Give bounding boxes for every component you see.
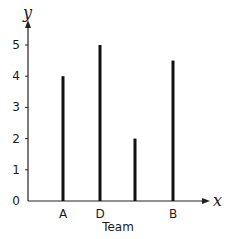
x-axis-arrow-icon — [202, 198, 210, 204]
x-tick-labels: ADB — [59, 207, 177, 221]
x-tick-label: D — [95, 207, 104, 221]
bar — [99, 45, 102, 201]
bars — [62, 45, 175, 201]
x-axis-title: Team — [101, 220, 134, 234]
bar — [134, 139, 137, 201]
bar-chart: y x 012345 ADB Team — [0, 0, 227, 239]
bar — [62, 76, 65, 201]
y-tick-label: 4 — [12, 69, 20, 83]
y-tick-label: 0 — [12, 194, 20, 208]
x-tick-label: B — [169, 207, 177, 221]
y-axis-variable: y — [22, 3, 33, 22]
x-axis-variable: x — [213, 191, 222, 210]
y-tick-label: 2 — [12, 132, 20, 146]
y-tick-label: 1 — [12, 163, 20, 177]
y-ticks: 012345 — [12, 38, 28, 208]
y-tick-label: 3 — [12, 100, 20, 114]
bar — [172, 61, 175, 201]
axes: y x — [22, 3, 222, 210]
x-tick-label: A — [59, 207, 68, 221]
y-tick-label: 5 — [12, 38, 20, 52]
